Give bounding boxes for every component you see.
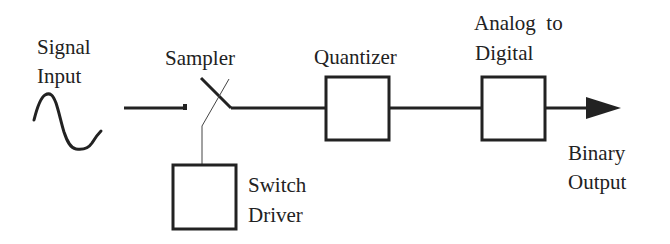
- output-arrow-icon: [586, 97, 621, 119]
- quantizer-box: [326, 77, 389, 140]
- signal-input-label-line1: Signal: [37, 35, 91, 59]
- input-terminal: [183, 104, 187, 110]
- signal-input-label-line2: Input: [37, 64, 81, 88]
- adc-label-line2: Digital: [475, 41, 533, 65]
- switch-driver-label-line1: Switch: [248, 173, 307, 197]
- switch-driver-box: [173, 165, 236, 229]
- sampling-block-diagram: Signal Input Sampler Switch Driver Quant…: [0, 0, 670, 244]
- sine-wave-icon: [34, 94, 101, 149]
- switch-driver-label-line2: Driver: [248, 203, 303, 227]
- binary-output-label-line1: Binary: [568, 141, 626, 165]
- sampler-label: Sampler: [165, 46, 235, 70]
- adc-box: [482, 77, 545, 140]
- quantizer-label: Quantizer: [314, 45, 397, 69]
- binary-output-label-line2: Output: [568, 170, 627, 194]
- adc-label-line1: Analog to: [474, 11, 563, 35]
